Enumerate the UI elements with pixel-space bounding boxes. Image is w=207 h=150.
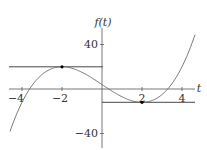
y-tick-label: 40 — [84, 38, 98, 51]
local-min-point — [140, 101, 143, 104]
y-axis-label: f(t) — [93, 16, 111, 29]
y-tick-label: −40 — [75, 127, 98, 140]
function-graph: −4 −2 2 4 40 −40 f(t) t — [0, 0, 207, 150]
x-axis-label: t — [197, 82, 202, 95]
function-curve — [10, 35, 195, 132]
x-tick-label: −2 — [52, 92, 68, 105]
local-max-point — [60, 65, 63, 68]
x-tick-label: 4 — [179, 92, 186, 105]
